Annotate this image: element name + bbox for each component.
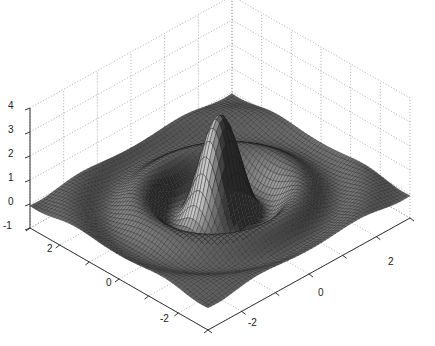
surface-plot: 4 3 2 1 0 -1 2 0 -2 -2 0 2 [0,0,435,346]
z-tick-neg1: -1 [3,220,12,231]
z-tick-4: 4 [8,100,14,111]
surface-mesh [30,94,410,308]
right-tick-0: 0 [318,287,324,298]
z-tick-3: 3 [8,124,14,135]
z-tick-0: 0 [8,196,14,207]
z-tick-1: 1 [8,172,14,183]
right-tick-neg2: -2 [248,317,257,328]
left-tick-0: 0 [106,277,112,288]
z-tick-2: 2 [8,148,14,159]
left-tick-2: 2 [47,243,53,254]
right-tick-2: 2 [388,256,394,267]
left-tick-neg2: -2 [160,313,169,324]
